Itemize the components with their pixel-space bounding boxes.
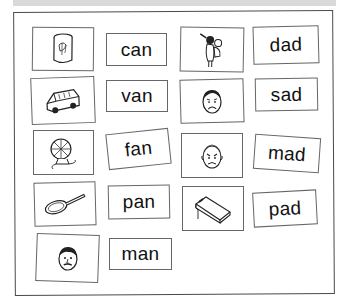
picture-card-pan[interactable] [33, 181, 96, 227]
picture-card-fan[interactable] [33, 130, 94, 175]
notepad-icon [193, 194, 233, 224]
word-card-pad[interactable]: pad [252, 189, 318, 227]
word-fan: fan [124, 137, 153, 162]
mad-face-icon [199, 142, 225, 170]
can-icon [52, 33, 74, 65]
word-card-van[interactable]: van [106, 80, 168, 112]
word-dad: dad [269, 34, 302, 57]
picture-card-mad[interactable] [181, 133, 243, 178]
top-gray-band [13, 0, 336, 6]
fan-icon [47, 136, 81, 170]
word-card-man[interactable]: man [109, 238, 172, 270]
word-card-fan[interactable]: fan [105, 128, 171, 170]
word-sad: sad [271, 83, 303, 106]
picture-card-sad[interactable] [179, 78, 244, 124]
pan-icon [43, 191, 88, 216]
word-pad: pad [268, 197, 302, 221]
word-card-pan[interactable]: pan [108, 184, 171, 219]
word-man: man [122, 243, 160, 265]
word-card-mad[interactable]: mad [253, 134, 321, 174]
word-card-can[interactable]: can [106, 33, 167, 66]
van-icon [44, 86, 83, 115]
picture-card-pad[interactable] [182, 186, 244, 231]
sad-face-icon [200, 87, 225, 116]
dad-icon [197, 30, 228, 69]
word-pan: pan [122, 191, 155, 214]
man-icon [55, 244, 80, 273]
word-card-sad[interactable]: sad [255, 77, 319, 111]
picture-card-dad[interactable] [180, 26, 245, 72]
picture-card-can[interactable] [32, 27, 94, 72]
picture-card-man[interactable] [35, 233, 100, 283]
picture-card-van[interactable] [30, 76, 96, 125]
word-can: can [121, 39, 153, 61]
word-mad: mad [267, 141, 306, 166]
word-van: van [121, 85, 153, 107]
word-card-dad[interactable]: dad [253, 25, 320, 65]
